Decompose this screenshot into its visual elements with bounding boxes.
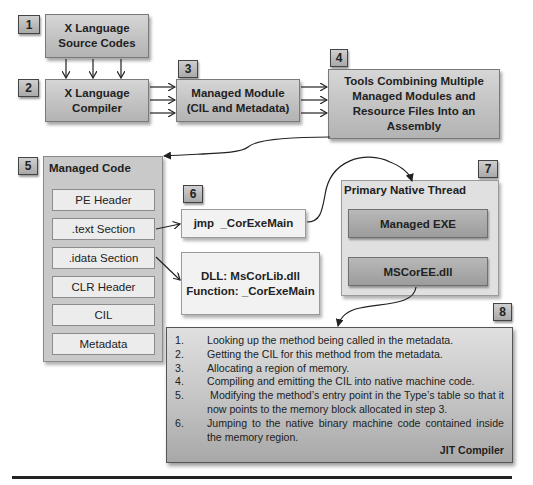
mscoree-dll-block: MSCorEE.dll (348, 257, 488, 286)
source-codes-line1: X Language (58, 21, 135, 36)
assembly-tools-line2: Managed Modules and (344, 89, 484, 104)
assembly-tools-line1: Tools Combining Multiple (344, 74, 484, 89)
jit-step: 2.Getting the CIL for this method from t… (175, 348, 504, 362)
step-text: Looking up the method being called in th… (207, 334, 504, 348)
step-text: Jumping to the native binary machine cod… (207, 417, 504, 445)
cil-item: CIL (52, 304, 155, 326)
jit-step: 6.Jumping to the native binary machine c… (175, 417, 504, 445)
source-codes-node: X Language Source Codes (45, 14, 149, 58)
metadata-item: Metadata (52, 333, 155, 355)
step-badge-5: 5 (18, 157, 38, 175)
import-dll-line: DLL: MsCorLib.dll (186, 269, 314, 284)
step-number: 6. (175, 417, 207, 445)
step-badge-2: 2 (18, 79, 39, 97)
jmp-corexemain-box: jmp _CorExeMain (181, 209, 306, 238)
managed-code-title: Managed Code (49, 162, 131, 174)
jit-steps-list: 1.Looking up the method being called in … (175, 334, 504, 444)
assembly-tools-line3: Resource Files Into an (344, 104, 484, 119)
clr-header-item: CLR Header (52, 276, 155, 298)
text-section-item: .text Section (52, 218, 155, 240)
pe-header-item: PE Header (52, 189, 155, 211)
step-text: Allocating a region of memory. (207, 362, 504, 376)
jit-step: 3.Allocating a region of memory. (175, 362, 504, 376)
step-text: Compiling and emitting the CIL into nati… (207, 375, 504, 389)
step-badge-7: 7 (478, 160, 498, 178)
jit-step: 4.Compiling and emitting the CIL into na… (175, 375, 504, 389)
step-number: 2. (175, 348, 207, 362)
step-number: 4. (175, 375, 207, 389)
step-number: 1. (175, 334, 207, 348)
step-badge-1: 1 (18, 15, 40, 34)
step-text: Modifying the method’s entry point in th… (207, 389, 504, 417)
jit-compiler-label: JIT Compiler (440, 444, 504, 458)
bottom-rule-divider (12, 476, 512, 479)
step-badge-4: 4 (330, 49, 348, 67)
assembly-tools-line4: Assembly (344, 119, 484, 134)
compiler-node: X Language Compiler (45, 79, 149, 122)
assembly-tools-node: Tools Combining Multiple Managed Modules… (328, 69, 500, 139)
jit-step: 1.Looking up the method being called in … (175, 334, 504, 348)
compiler-line2: Compiler (64, 101, 129, 116)
compiler-line1: X Language (64, 86, 129, 101)
step-text: Getting the CIL for this method from the… (207, 348, 504, 362)
import-function-line: Function: _CorExeMain (186, 284, 314, 299)
source-codes-line2: Source Codes (58, 36, 135, 51)
idata-section-item: .idata Section (52, 247, 155, 269)
import-table-box: DLL: MsCorLib.dll Function: _CorExeMain (181, 252, 320, 315)
jit-compiler-box: 1.Looking up the method being called in … (166, 327, 513, 463)
managed-module-line2: (CIL and Metadata) (187, 101, 290, 116)
step-number: 3. (175, 362, 207, 376)
managed-module-line1: Managed Module (187, 86, 290, 101)
step-badge-8: 8 (493, 303, 512, 321)
jit-step: 5. Modifying the method’s entry point in… (175, 389, 504, 417)
managed-exe-block: Managed EXE (348, 209, 488, 238)
step-badge-3: 3 (178, 60, 198, 78)
managed-module-node: Managed Module (CIL and Metadata) (176, 79, 300, 122)
step-badge-6: 6 (183, 185, 203, 203)
jmp-label: jmp _CorExeMain (194, 216, 294, 231)
native-thread-title: Primary Native Thread (344, 184, 466, 196)
step-number: 5. (175, 389, 207, 417)
